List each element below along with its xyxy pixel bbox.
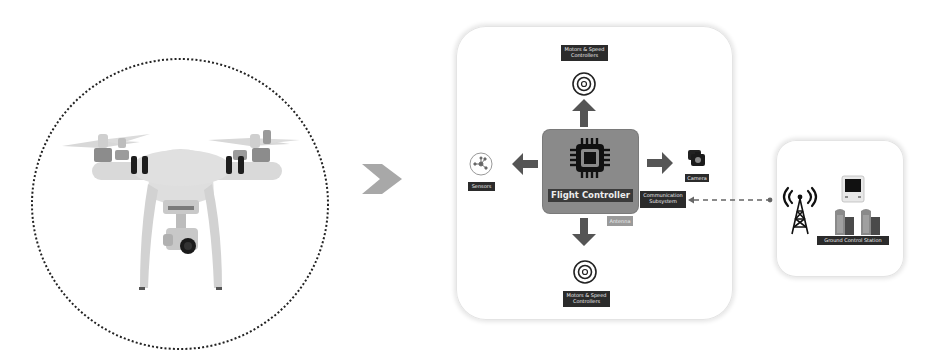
server-icon: [859, 207, 881, 235]
arrow-down-icon: [572, 218, 596, 246]
communication-subsystem-label: Communication Subsystem: [640, 191, 686, 208]
radio-tower-icon: [780, 187, 820, 237]
drone-image: [0, 0, 350, 355]
drone-section: [0, 0, 350, 355]
arrow-left-icon: [512, 153, 538, 175]
ground-control-station-label: Ground Control Station: [817, 236, 889, 245]
motor-icon: [571, 71, 597, 97]
arrow-up-icon: [572, 99, 596, 127]
chevron-right-icon: [362, 164, 402, 194]
sensors-label: Sensors: [468, 182, 495, 191]
camera-icon: [686, 148, 706, 168]
bottom-motors-label: Motors & Speed Controllers: [563, 291, 610, 307]
dashed-link-connector: [688, 195, 778, 205]
server-icon: [833, 207, 855, 235]
motor-icon: [572, 259, 598, 285]
cpu-chip-icon: [570, 138, 610, 178]
sensor-network-icon: [469, 152, 493, 176]
arrow-right-icon: [647, 152, 673, 174]
flight-controller-label: Flight Controller: [548, 189, 633, 202]
top-motors-label: Motors & Speed Controllers: [561, 45, 608, 61]
monitor-icon: [842, 176, 864, 202]
antenna-label: Antenna: [607, 216, 633, 226]
camera-label: Camera: [685, 174, 709, 182]
